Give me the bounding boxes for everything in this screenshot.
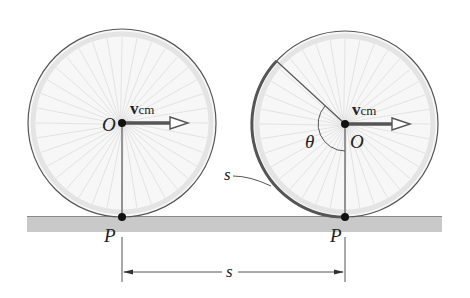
- label-distance-s: s: [226, 263, 233, 280]
- dimension-arrow-right-icon: [334, 270, 344, 275]
- dimension-arrow-left-icon: [123, 270, 133, 275]
- label-contact-left: P: [104, 226, 116, 245]
- label-velocity-right: vcm: [352, 101, 376, 118]
- label-arc-s: s: [224, 166, 231, 183]
- center-point-right: [341, 120, 349, 128]
- contact-point-left: [118, 213, 126, 221]
- ground: [27, 216, 442, 232]
- label-velocity-left: vcm: [130, 100, 154, 117]
- label-center-left: O: [102, 115, 116, 134]
- label-contact-right: P: [330, 226, 342, 245]
- label-theta: θ: [305, 132, 314, 151]
- rolling-wheel-diagram: [0, 0, 470, 298]
- arc-label-leader: [233, 176, 271, 186]
- contact-point-right: [341, 213, 349, 221]
- label-center-right: O: [350, 132, 364, 151]
- center-point-left: [118, 119, 126, 127]
